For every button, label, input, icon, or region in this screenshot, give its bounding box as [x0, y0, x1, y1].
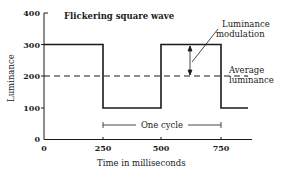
modulation-arrow [188, 29, 218, 75]
x-tick-750: 750 [213, 143, 230, 153]
y-tick-0: 0 [34, 134, 40, 144]
y-tick-400: 400 [23, 8, 40, 18]
x-tick-labels: 0 250 500 750 [41, 143, 230, 153]
x-tick-500: 500 [153, 143, 170, 153]
x-tick-0: 0 [41, 143, 47, 153]
y-tick-200: 200 [23, 71, 40, 81]
modulation-label-line1: Luminance [222, 19, 270, 29]
square-wave-chart: 400 300 200 100 0 0 250 500 750 Time in … [0, 0, 285, 177]
y-tick-300: 300 [23, 40, 40, 50]
x-axis-label: Time in milliseconds [97, 158, 186, 168]
average-label-line2: luminance [229, 75, 274, 85]
one-cycle-label: One cycle [141, 120, 183, 130]
x-tick-250: 250 [95, 143, 112, 153]
modulation-label-line2: modulation [216, 29, 265, 39]
y-tick-labels: 400 300 200 100 0 [23, 8, 40, 144]
y-axis-label: Luminance [6, 54, 16, 102]
y-tick-100: 100 [23, 103, 40, 113]
average-label-line1: Average [228, 65, 264, 75]
chart-title: Flickering square wave [64, 11, 175, 21]
